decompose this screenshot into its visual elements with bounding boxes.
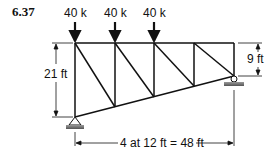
diagonal-1 [75,43,115,107]
diagonal-4 [194,43,234,76]
load-label-2: 40 k [104,6,128,20]
diagonal-3 [154,43,194,86]
load-label-3: 40 k [143,6,167,20]
left-height-label: 21 ft [44,67,68,81]
truss-members [75,43,234,117]
right-height-label: 9 ft [247,52,264,66]
load-label-1: 40 k [64,6,88,20]
diagonal-2 [115,43,154,97]
truss-diagram: 40 k 40 k 40 k 21 ft 9 ft 4 at [0,0,278,159]
load-arrows [75,22,154,41]
span-label: 4 at 12 ft = 48 ft [120,136,204,150]
pin-support-icon [66,117,84,129]
